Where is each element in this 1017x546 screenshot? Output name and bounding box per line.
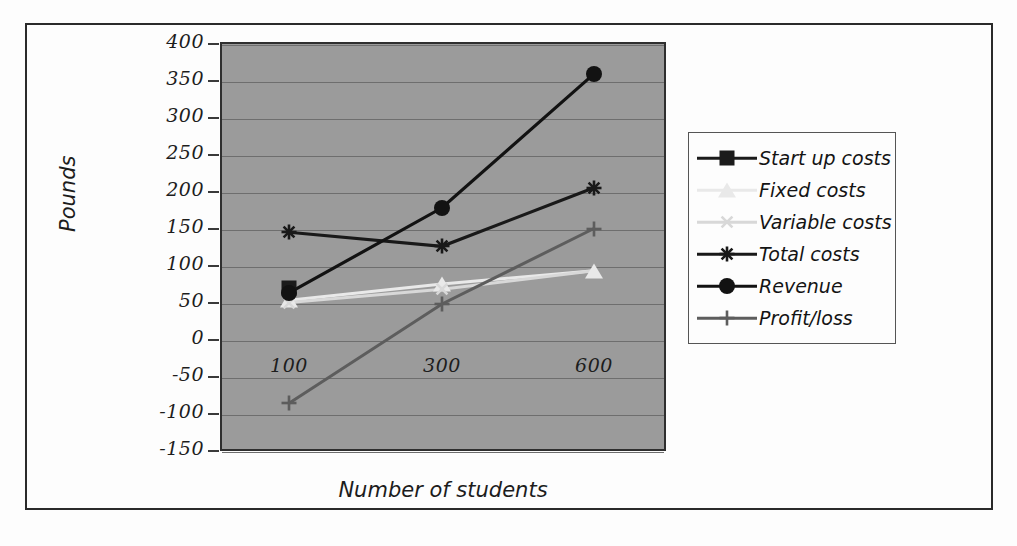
legend-item-revenue[interactable]: Revenue: [695, 270, 887, 302]
y-tick-label: 200: [146, 180, 204, 199]
y-tick-mark: [208, 376, 219, 378]
legend-marker-circle-icon: [695, 275, 759, 297]
y-tick-label: 100: [146, 254, 204, 273]
legend-label: Total costs: [759, 243, 860, 265]
series-line: [289, 74, 594, 293]
legend-item-total-costs[interactable]: Total costs: [695, 238, 887, 270]
data-point: [432, 294, 452, 314]
y-tick-mark: [208, 43, 219, 45]
legend-label: Profit/loss: [759, 307, 853, 329]
legend-item-profit-loss[interactable]: Profit/loss: [695, 302, 887, 334]
y-tick-mark: [208, 228, 219, 230]
y-tick-label: -50: [146, 365, 204, 384]
y-tick-label: 150: [146, 217, 204, 236]
data-point: [586, 66, 602, 82]
legend-label: Variable costs: [759, 211, 892, 233]
gridline: [222, 452, 664, 453]
y-tick-label: 300: [146, 106, 204, 125]
data-point: [584, 219, 604, 239]
legend-marker-triangle-icon: [695, 179, 759, 201]
legend-marker-asterisk-icon: [695, 243, 759, 265]
y-tick-mark: [208, 154, 219, 156]
y-tick-mark: [208, 450, 219, 452]
legend-item-fixed-costs[interactable]: Fixed costs: [695, 174, 887, 206]
x-tick-label: 100: [270, 354, 308, 376]
y-tick-mark: [208, 265, 219, 267]
legend-item-variable-costs[interactable]: Variable costs: [695, 206, 887, 238]
y-tick-mark: [208, 80, 219, 82]
x-tick-label: 600: [575, 354, 613, 376]
y-tick-mark: [208, 191, 219, 193]
y-tick-label: -150: [146, 439, 204, 458]
data-point: [434, 200, 450, 216]
y-axis-title: Pounds: [56, 156, 80, 232]
legend-item-start-up-costs[interactable]: Start up costs: [695, 142, 887, 174]
chart-screenshot: Pounds 400350300250200150100500-50-100-1…: [0, 0, 1017, 546]
legend-marker-plus-icon: [695, 307, 759, 329]
data-point: [584, 178, 604, 198]
data-point: [432, 236, 452, 256]
y-tick-mark: [208, 117, 219, 119]
y-tick-label: 0: [146, 328, 204, 347]
legend-label: Start up costs: [759, 147, 891, 169]
y-tick-label: 350: [146, 69, 204, 88]
data-point: [281, 285, 297, 301]
y-tick-label: 250: [146, 143, 204, 162]
plot-area: 100300600: [220, 42, 666, 451]
legend-marker-x-icon: [695, 211, 759, 233]
legend-label: Fixed costs: [759, 179, 866, 201]
chart-legend: Start up costsFixed costsVariable costsT…: [688, 132, 896, 344]
data-point: [279, 222, 299, 242]
legend-marker-square-icon: [695, 147, 759, 169]
y-tick-label: 400: [146, 32, 204, 51]
y-tick-mark: [208, 413, 219, 415]
x-tick-label: 300: [423, 354, 461, 376]
y-tick-mark: [208, 302, 219, 304]
y-tick-label: 50: [146, 291, 204, 310]
legend-label: Revenue: [759, 275, 843, 297]
y-tick-label: -100: [146, 402, 204, 421]
y-tick-mark: [208, 339, 219, 341]
data-point: [279, 393, 299, 413]
x-axis-title: Number of students: [220, 478, 666, 502]
data-point: [585, 263, 603, 278]
